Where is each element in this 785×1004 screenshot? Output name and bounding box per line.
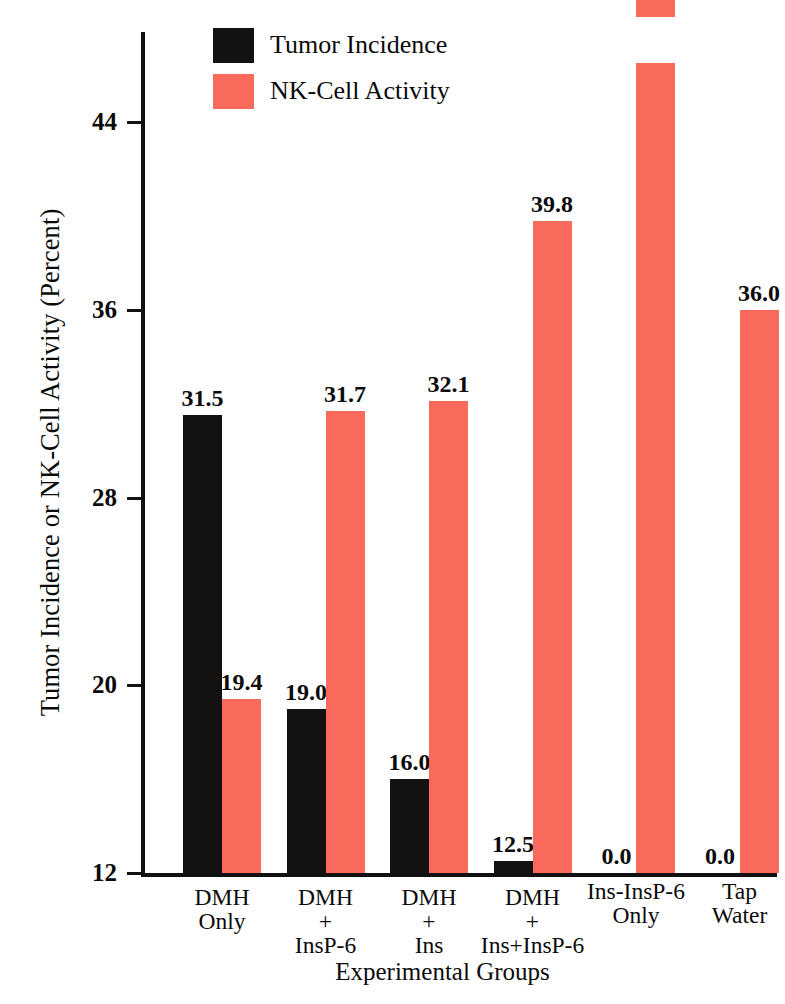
y-tick-label: 44 [55,109,117,134]
x-category-label-line: Ins+InsP-6 [453,934,613,958]
x-axis-category-labels: DMHOnlyDMH+InsP-6DMH+InsDMH+Ins+InsP-6In… [0,880,785,958]
bar-value-nk-cell-activity: 32.1 [415,372,482,396]
x-category-label: TapWater [660,880,785,928]
bar-value-tumor-incidence: 31.5 [169,386,236,410]
bar-tumor-incidence [287,709,326,873]
bar-nk-cell-activity [429,401,468,873]
y-tick-label: 20 [55,672,117,697]
bar-nk-cell-activity [222,699,261,873]
bar-nk-cell-activity [533,221,572,873]
bar-chart: Tumor Incidence or NK-Cell Activity (Per… [0,0,785,1004]
y-tick-mark [127,309,141,312]
bar-nk-cell-activity [326,411,365,873]
bar-value-nk-cell-activity: 36.0 [726,281,785,305]
bar-tumor-incidence [183,415,222,873]
y-tick-mark [127,684,141,687]
y-axis-title: Tumor Incidence or NK-Cell Activity (Per… [35,83,66,843]
bar-value-nk-cell-activity: 19.4 [208,670,275,694]
bar-nk-cell-activity [740,310,779,873]
y-tick-label: 36 [55,297,117,322]
x-category-label-line: Tap [660,880,785,904]
x-category-label-line: Water [660,904,785,928]
y-tick-mark [127,121,141,124]
plot-area: 31.519.419.031.716.032.112.539.80.049.40… [145,0,777,873]
bar-value-nk-cell-activity: 31.7 [312,382,379,406]
bar-tumor-incidence [494,861,533,873]
x-axis-title: Experimental Groups [0,958,785,986]
y-tick-mark [127,497,141,500]
bar-nk-cell-activity [636,0,675,873]
y-tick-label: 28 [55,485,117,510]
y-tick-mark [127,872,141,875]
x-axis-line [141,873,777,877]
bar-value-nk-cell-activity: 39.8 [519,192,586,216]
bar-tumor-incidence [390,779,429,873]
